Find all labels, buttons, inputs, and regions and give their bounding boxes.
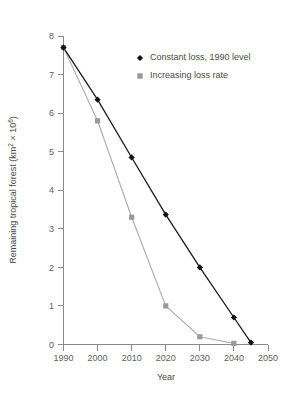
series-line-increasing-loss: [64, 48, 234, 344]
data-point-increasing-loss: [129, 215, 134, 220]
x-tick-label: 2020: [156, 353, 176, 363]
x-axis-title: Year: [157, 372, 175, 382]
data-point-increasing-loss: [95, 118, 100, 123]
series-layer: [60, 44, 254, 345]
data-point-increasing-loss: [231, 341, 236, 346]
y-tick-label: 6: [49, 108, 54, 118]
legend-square-icon: [137, 73, 142, 78]
y-tick-label: 5: [49, 147, 54, 157]
x-tick-label: 1990: [53, 353, 73, 363]
y-tick-label: 7: [49, 70, 54, 80]
y-tick-label: 0: [49, 340, 54, 350]
x-tick-label: 2040: [224, 353, 244, 363]
x-tick-label: 2030: [190, 353, 210, 363]
y-tick-label: 2: [49, 263, 54, 273]
line-chart: 012345678 1990200020102020203020402050 R…: [0, 0, 300, 396]
chart-figure: 012345678 1990200020102020203020402050 R…: [0, 0, 300, 396]
y-tick-label: 4: [49, 185, 54, 195]
y-tick-label: 3: [49, 224, 54, 234]
y-axis-title: Remaining tropical forest (km2 × 106): [7, 116, 18, 264]
data-point-increasing-loss: [197, 334, 202, 339]
y-tick-label: 1: [49, 301, 54, 311]
legend-diamond-icon: [137, 55, 143, 61]
data-point-constant-loss: [129, 154, 135, 160]
y-axis-ticks: 012345678: [49, 31, 64, 350]
legend-item-label: Increasing loss rate: [150, 70, 228, 80]
x-tick-label: 2050: [258, 353, 278, 363]
x-axis-ticks: 1990200020102020203020402050: [53, 345, 278, 364]
series-line-constant-loss: [64, 48, 251, 343]
x-tick-label: 2000: [88, 353, 108, 363]
y-tick-label: 8: [49, 31, 54, 41]
legend-item-label: Constant loss, 1990 level: [150, 52, 251, 62]
x-tick-label: 2010: [122, 353, 142, 363]
chart-legend: Constant loss, 1990 levelIncreasing loss…: [137, 52, 251, 80]
data-point-increasing-loss: [163, 303, 168, 308]
